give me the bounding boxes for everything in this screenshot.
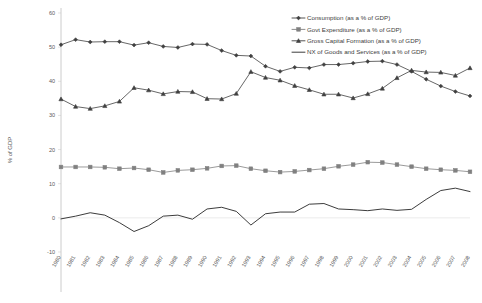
data-point-marker — [249, 167, 253, 171]
data-point-marker — [337, 165, 341, 169]
data-point-marker — [454, 169, 458, 173]
y-tick-label: 60 — [49, 10, 55, 16]
y-tick-label: 0 — [52, 215, 55, 221]
y-axis-title: % of GDP — [7, 137, 13, 164]
line-chart: -100102030405060% of GDP1980198119821983… — [0, 0, 482, 303]
data-point-marker — [176, 46, 180, 50]
x-tick-label: 2008 — [460, 255, 471, 269]
data-point-marker — [380, 59, 384, 63]
data-point-marker — [74, 104, 78, 108]
data-point-marker — [468, 66, 472, 70]
x-tick-label: 1998 — [313, 255, 324, 269]
x-tick-label: 2004 — [401, 255, 412, 269]
x-tick-label: 1983 — [94, 255, 105, 269]
data-point-marker — [264, 169, 268, 173]
data-point-marker — [453, 90, 457, 94]
legend-item-label: Govt Expenditure (as a % of GDP) — [307, 26, 402, 33]
x-tick-label: 1999 — [328, 255, 339, 269]
data-point-marker — [161, 45, 165, 49]
x-tick-label: 1982 — [80, 255, 91, 269]
data-point-marker — [293, 65, 297, 69]
data-point-marker — [424, 167, 428, 171]
data-point-marker — [220, 49, 224, 53]
data-point-marker — [118, 167, 122, 171]
x-tick-label: 2002 — [372, 255, 383, 269]
x-tick-label: 1992 — [226, 255, 237, 269]
x-tick-label: 2005 — [416, 255, 427, 269]
data-point-marker — [74, 165, 78, 169]
data-point-marker — [308, 168, 312, 172]
y-tick-label: -10 — [47, 249, 55, 255]
x-tick-label: 1984 — [109, 255, 120, 269]
data-point-marker — [395, 76, 399, 80]
data-point-marker — [234, 164, 238, 168]
x-tick-label: 2003 — [387, 255, 398, 269]
data-point-marker — [147, 41, 151, 45]
data-point-marker — [59, 43, 63, 47]
data-point-marker — [278, 69, 282, 73]
data-point-marker — [351, 61, 355, 65]
x-tick-label: 1980 — [51, 255, 62, 269]
data-point-marker — [161, 171, 165, 175]
data-point-marker — [205, 167, 209, 171]
data-point-marker — [59, 165, 63, 169]
data-point-marker — [88, 165, 92, 169]
data-point-marker — [322, 167, 326, 171]
x-tick-label: 1990 — [197, 255, 208, 269]
data-point-marker — [132, 86, 136, 90]
data-point-marker — [439, 168, 443, 172]
data-point-marker — [351, 163, 355, 167]
x-tick-label: 1989 — [182, 255, 193, 269]
x-tick-label: 1991 — [211, 255, 222, 269]
x-tick-label: 1986 — [138, 255, 149, 269]
data-point-marker — [337, 63, 341, 67]
series-line — [61, 188, 470, 231]
x-tick-label: 1994 — [255, 255, 266, 269]
y-tick-label: 10 — [49, 181, 55, 187]
legend-item-label: Consumption (as a % of GDP) — [307, 14, 390, 21]
legend-marker — [297, 28, 301, 32]
data-point-marker — [468, 94, 472, 98]
data-point-marker — [118, 40, 122, 44]
x-tick-label: 1997 — [299, 255, 310, 269]
data-point-marker — [366, 160, 370, 164]
data-point-marker — [381, 161, 385, 165]
data-point-marker — [74, 38, 78, 42]
data-point-marker — [132, 166, 136, 170]
data-point-marker — [468, 170, 472, 174]
data-point-marker — [88, 40, 92, 44]
data-point-marker — [234, 53, 238, 57]
y-tick-label: 50 — [49, 44, 55, 50]
data-point-marker — [176, 169, 180, 173]
chart-container: -100102030405060% of GDP1980198119821983… — [0, 0, 482, 303]
data-point-marker — [132, 43, 136, 47]
x-tick-label: 2006 — [430, 255, 441, 269]
y-tick-label: 20 — [49, 147, 55, 153]
x-tick-label: 1993 — [240, 255, 251, 269]
data-point-marker — [220, 164, 224, 168]
data-point-marker — [395, 163, 399, 167]
data-point-marker — [293, 170, 297, 174]
x-tick-label: 2000 — [343, 255, 354, 269]
data-point-marker — [191, 168, 195, 172]
x-tick-label: 1988 — [167, 255, 178, 269]
data-point-marker — [147, 168, 151, 172]
data-point-marker — [395, 63, 399, 67]
data-point-marker — [307, 66, 311, 70]
data-point-marker — [59, 97, 63, 101]
data-point-marker — [439, 84, 443, 88]
x-tick-label: 2007 — [445, 255, 456, 269]
legend-item-label: Gross Capital Formation (as a % of GDP) — [307, 37, 421, 44]
y-tick-label: 40 — [49, 78, 55, 84]
data-point-marker — [278, 170, 282, 174]
y-tick-label: 30 — [49, 112, 55, 118]
legend-marker — [297, 16, 301, 20]
data-point-marker — [205, 43, 209, 47]
data-point-marker — [424, 77, 428, 81]
x-tick-label: 1981 — [65, 255, 76, 269]
data-point-marker — [366, 60, 370, 64]
data-point-marker — [249, 70, 253, 74]
legend-item-label: NX of Goods and Services (as a % of GDP) — [307, 48, 427, 55]
data-point-marker — [191, 42, 195, 46]
data-point-marker — [103, 166, 107, 170]
